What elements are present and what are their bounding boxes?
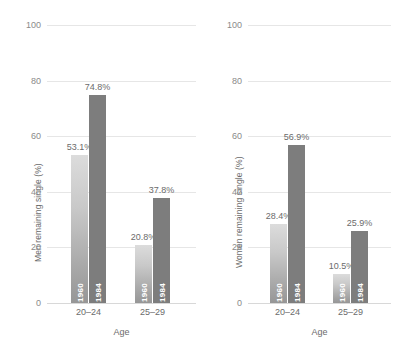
x-tick-25-29-women: 25–29 — [333, 307, 368, 317]
y-tick-60: 60 — [31, 132, 41, 141]
bar-group-20-24-men: 53.1% 1960 74.8% 1984 20–24 — [71, 25, 106, 303]
bar-men-1960-20-24[interactable]: 53.1% 1960 — [71, 155, 88, 303]
bar-men-1984-25-29[interactable]: 37.8% 1984 — [153, 198, 170, 303]
value-label-men-1984-25-29: 37.8% — [149, 185, 175, 195]
y-tick-100: 100 — [227, 21, 242, 30]
bar-series-label-1960: 1960 — [75, 283, 84, 302]
plot-area-men: 100 80 60 40 20 0 53.1% 1960 — [47, 25, 196, 303]
bar-series-label-1984: 1984 — [93, 283, 102, 302]
y-tick-20: 20 — [31, 243, 41, 252]
gridline-80: 80 — [47, 81, 196, 82]
dual-bar-chart-figure: Men remaining single (%) 100 80 60 40 20… — [0, 0, 406, 361]
y-tick-20: 20 — [232, 243, 242, 252]
bar-men-1984-20-24[interactable]: 74.8% 1984 — [89, 95, 106, 303]
y-tick-80: 80 — [232, 76, 242, 85]
y-tick-0: 0 — [237, 299, 242, 308]
x-axis-label-women: Age — [248, 327, 391, 337]
bar-series-label-1984: 1984 — [292, 283, 301, 302]
bar-group-25-29-women: 10.5% 1960 25.9% 1984 25–29 — [333, 25, 368, 303]
y-tick-80: 80 — [31, 76, 41, 85]
bar-series-label-1984: 1984 — [355, 283, 364, 302]
plot-area-women: 100 80 60 40 20 0 28.4% 1960 — [248, 25, 391, 303]
y-tick-40: 40 — [31, 187, 41, 196]
y-tick-40: 40 — [232, 187, 242, 196]
bar-group-25-29-men: 20.8% 1960 37.8% 1984 25–29 — [135, 25, 170, 303]
x-tick-20-24-men: 20–24 — [71, 307, 106, 317]
chart-panel-women: Women remaining single (%) 100 80 60 40 … — [203, 0, 406, 361]
bar-women-1960-20-24[interactable]: 28.4% 1960 — [270, 224, 287, 303]
bar-women-1984-20-24[interactable]: 56.9% 1984 — [288, 145, 305, 303]
chart-panel-men: Men remaining single (%) 100 80 60 40 20… — [0, 0, 203, 361]
y-tick-100: 100 — [26, 21, 41, 30]
bar-series-label-1960: 1960 — [337, 283, 346, 302]
bar-series-label-1984: 1984 — [157, 283, 166, 302]
bar-series-label-1960: 1960 — [274, 283, 283, 302]
x-tick-20-24-women: 20–24 — [270, 307, 305, 317]
bar-series-label-1960: 1960 — [139, 283, 148, 302]
gridline-0: 0 — [248, 303, 391, 304]
x-axis-label-men: Age — [47, 327, 196, 337]
y-tick-0: 0 — [36, 299, 41, 308]
value-label-women-1984-25-29: 25.9% — [347, 218, 373, 228]
value-label-women-1984-20-24: 56.9% — [284, 132, 310, 142]
gridline-20: 20 — [47, 247, 196, 248]
value-label-men-1984-20-24: 74.8% — [85, 82, 111, 92]
x-tick-25-29-men: 25–29 — [135, 307, 170, 317]
bar-men-1960-25-29[interactable]: 20.8% 1960 — [135, 245, 152, 303]
bar-group-20-24-women: 28.4% 1960 56.9% 1984 20–24 — [270, 25, 305, 303]
gridline-0: 0 — [47, 303, 196, 304]
bar-women-1984-25-29[interactable]: 25.9% 1984 — [351, 231, 368, 303]
gridline-100: 100 — [47, 25, 196, 26]
y-tick-60: 60 — [232, 132, 242, 141]
bar-women-1960-25-29[interactable]: 10.5% 1960 — [333, 274, 350, 303]
gridline-60: 60 — [47, 136, 196, 137]
